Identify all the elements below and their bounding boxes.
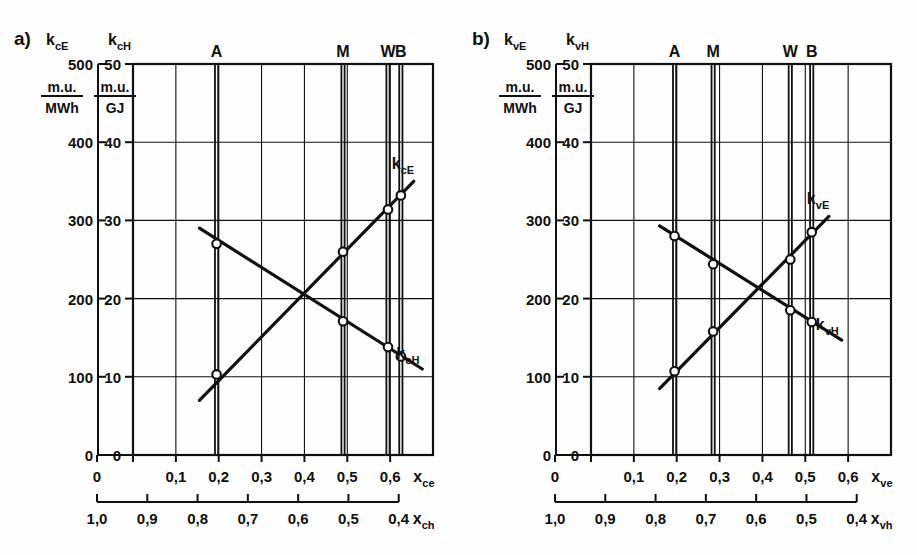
x-tick-secondary: 0,4 [846,510,868,527]
svg-text:vH: vH [825,325,839,337]
x-tick-primary: 0,4 [294,468,316,485]
data-point-k_cH-W [384,343,393,352]
x-tick-secondary: 0,9 [137,510,158,527]
marker-label-B: B [395,43,407,60]
marker-label-W: W [380,43,396,60]
svg-text:ve: ve [880,477,892,489]
y-tick-left: 100 [526,369,551,386]
data-point-k_cE-A [212,370,221,379]
y-tick-right: 10 [104,369,121,386]
x-tick-primary: 0,2 [208,468,229,485]
marker-line-M [341,64,344,455]
curve-k_cE [199,181,413,400]
svg-text:k: k [807,190,816,207]
unit-right: m.u.GJ [94,79,136,116]
svg-text:cE: cE [55,40,68,52]
svg-text:cE: cE [401,164,414,176]
plot-frame [591,64,891,455]
svg-text:m.u.: m.u. [101,79,130,95]
y-axis-right-symbol: kcH [108,31,131,52]
x-tick-secondary: 1,0 [87,510,108,527]
svg-text:k: k [396,345,405,362]
marker-line-A [673,64,676,455]
panel-label: b) [472,28,490,49]
data-point-k_vE-W [786,255,795,264]
x-tick-primary: 0,5 [337,468,358,485]
y-axis-left [98,64,106,455]
x-tick-secondary: 0,5 [796,510,817,527]
data-point-k_vE-M [709,327,718,336]
x-axis-secondary-label: xvh [871,510,893,531]
svg-text:k: k [46,31,55,48]
y-tick-left: 500 [68,56,93,73]
data-point-k_vH-M [709,260,718,269]
y-tick-left: 400 [68,134,93,151]
y-axis-left-symbol: kcE [46,31,68,52]
svg-text:m.u.: m.u. [559,79,588,95]
marker-line-A [215,64,218,455]
data-point-k_cE-W [384,205,393,214]
x-tick-primary: 0,6 [838,468,859,485]
data-point-k_vE-B [807,228,816,237]
svg-text:vh: vh [880,519,893,531]
svg-text:x: x [413,510,422,527]
y-tick-left: 200 [526,291,551,308]
x-axis-primary-label: xve [871,468,892,489]
svg-text:ch: ch [422,519,435,531]
svg-text:GJ: GJ [564,100,583,116]
y-tick-left: 500 [526,56,551,73]
data-point-k_vH-A [670,232,679,241]
x-tick-secondary: 0,5 [338,510,359,527]
y-tick-right: 40 [104,134,121,151]
y-tick-left: 300 [68,212,93,229]
y-axis-right [583,64,591,455]
plot-frame [133,64,433,455]
unit-left: m.u.MWh [41,79,83,116]
svg-text:cH: cH [405,354,419,366]
x-tick-secondary: 0,6 [288,510,309,527]
chart-panel-b: b)kvEkvHAMWB500400300200100050403020100m… [458,0,916,555]
y-tick-right: 50 [562,56,579,73]
y-axis-right-symbol: kvH [566,31,589,52]
marker-label-M: M [706,43,719,60]
y-tick-left: 0 [85,447,93,464]
x-tick-primary: 0 [551,468,559,485]
x-tick-secondary: 0,6 [746,510,767,527]
x-axis-secondary-label: xch [413,510,435,531]
data-point-k_vH-W [786,306,795,315]
unit-left: m.u.MWh [499,79,541,116]
svg-text:m.u.: m.u. [48,79,77,95]
y-tick-left: 0 [543,447,551,464]
y-tick-right: 10 [562,369,579,386]
x-tick-primary: 0,2 [666,468,687,485]
x-axis-secondary [97,494,399,502]
x-axis-secondary [555,494,857,502]
svg-text:vE: vE [816,199,829,211]
y-tick-right: 20 [562,291,579,308]
grid [591,64,891,455]
x-tick-primary: 0,1 [623,468,644,485]
svg-text:m.u.: m.u. [506,79,535,95]
marker-label-M: M [336,43,349,60]
marker-line-B [810,64,813,455]
svg-text:k: k [392,155,401,172]
x-tick-secondary: 1,0 [545,510,566,527]
marker-label-A: A [669,43,681,60]
marker-line-W [386,64,389,455]
y-tick-right: 50 [104,56,121,73]
marker-lines: AMWB [211,43,407,455]
panel-label: a) [14,28,31,49]
curve-k_vH [660,226,842,340]
svg-text:ce: ce [422,477,434,489]
marker-label-B: B [806,43,818,60]
svg-text:k: k [816,316,825,333]
marker-label-W: W [783,43,799,60]
svg-text:cH: cH [117,40,131,52]
y-tick-left: 400 [526,134,551,151]
x-tick-primary: 0,1 [165,468,186,485]
y-tick-right: 30 [562,212,579,229]
grid [133,64,433,455]
x-tick-primary: 0,3 [251,468,272,485]
y-tick-right: 20 [104,291,121,308]
curve-label-fall: kvH [816,316,839,337]
